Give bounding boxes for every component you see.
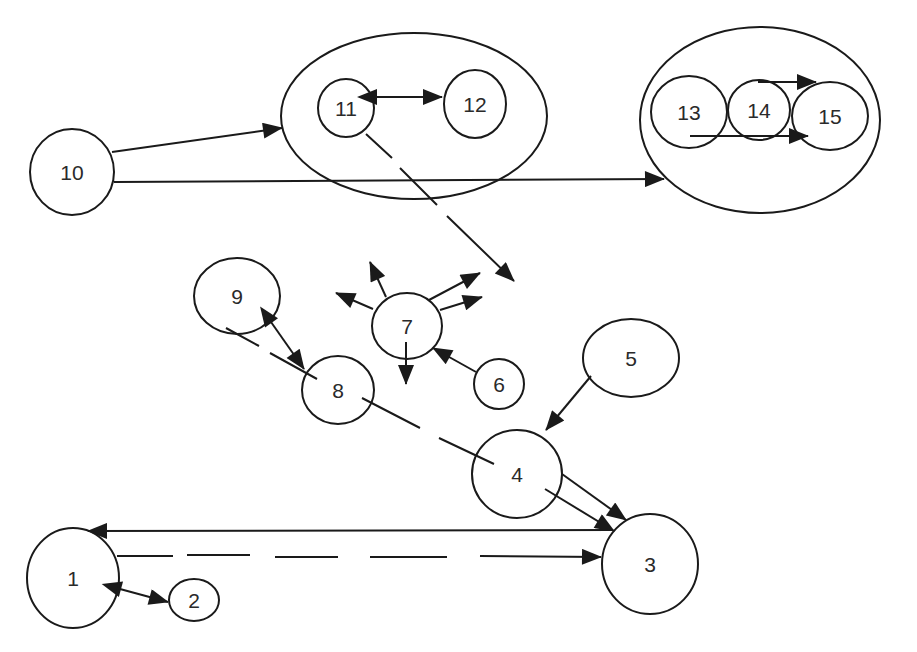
- node-14: 14: [728, 80, 790, 140]
- node-label: 9: [231, 285, 243, 308]
- edge-11-dashed-out: [366, 134, 514, 281]
- node-label: 12: [463, 93, 486, 116]
- edge-7-out-right: [440, 297, 482, 310]
- node-3: 3: [602, 514, 698, 614]
- edge-7-out-up: [370, 262, 386, 297]
- edge-9-to-4-dashed: [226, 328, 494, 464]
- node-label: 4: [511, 463, 523, 486]
- node-label: 11: [335, 97, 357, 120]
- node-4: 4: [472, 430, 562, 518]
- node-label: 8: [332, 379, 344, 402]
- node-label: 7: [401, 315, 413, 338]
- node-5: 5: [583, 319, 679, 397]
- node-2: 2: [169, 579, 219, 621]
- node-8: 8: [302, 356, 374, 424]
- node-label: 1: [67, 567, 79, 590]
- node-label: 10: [60, 161, 83, 184]
- edge-7-out-left: [336, 293, 373, 309]
- node-label: 2: [188, 589, 200, 612]
- node-label: 3: [644, 553, 656, 576]
- node-label: 6: [493, 373, 505, 396]
- node-9: 9: [194, 258, 280, 334]
- edge-7-out-upright: [429, 273, 480, 300]
- node-label: 5: [625, 347, 637, 370]
- edge-10-to-group-13-14-15: [114, 179, 664, 182]
- node-label: 14: [747, 99, 771, 122]
- relationship-diagram: 1 2 3 4 5 6 7 8 9 10 11 12 13 14 15: [0, 0, 917, 652]
- edge-10-to-group-11-12: [112, 128, 282, 152]
- group-11-12: [281, 33, 547, 199]
- node-15: 15: [792, 82, 868, 150]
- node-12: 12: [444, 70, 506, 138]
- node-label: 15: [818, 105, 841, 128]
- node-label: 13: [677, 101, 700, 124]
- edge-5-to-4: [546, 376, 591, 430]
- edge-1-2-bidirectional: [120, 589, 168, 602]
- node-1: 1: [27, 528, 119, 628]
- edge-4-to-3-upper: [562, 474, 626, 520]
- edge-6-to-7: [433, 348, 476, 372]
- node-13: 13: [651, 76, 727, 148]
- node-6: 6: [474, 359, 524, 409]
- node-11: 11: [318, 79, 374, 137]
- edge-1-to-3-dashed: [117, 555, 601, 557]
- edge-3-to-1: [88, 530, 612, 531]
- node-10: 10: [30, 129, 114, 215]
